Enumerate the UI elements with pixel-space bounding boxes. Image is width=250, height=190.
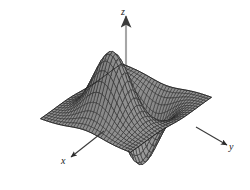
axis-label-z: z: [121, 7, 125, 17]
axis-label-x: x: [61, 156, 65, 166]
surface-plot-canvas: [0, 0, 250, 190]
axis-label-y: y: [229, 142, 233, 152]
axis-y: [196, 127, 227, 145]
axis-x: [71, 131, 104, 157]
surface-plot-figure: z x y: [0, 0, 250, 190]
surface-mesh: [41, 51, 212, 164]
axis-x-line: [71, 131, 104, 157]
axis-y-line: [196, 127, 227, 145]
